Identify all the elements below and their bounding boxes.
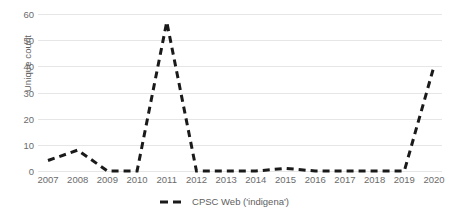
x-tick-label: 2007 — [37, 174, 58, 185]
x-tick-label: 2011 — [157, 174, 177, 185]
y-tick-label: 30 — [8, 87, 34, 98]
x-tick-label: 2009 — [97, 174, 118, 185]
legend-label: CPSC Web ('indigena') — [192, 196, 289, 207]
x-tick-label: 2013 — [216, 174, 237, 185]
x-tick-label: 2008 — [67, 174, 88, 185]
y-tick-label: 50 — [8, 35, 34, 46]
x-axis-tick-labels: 2007200820092010201120122013201420152016… — [38, 174, 442, 190]
x-tick-label: 2017 — [334, 174, 355, 185]
x-tick-label: 2016 — [305, 174, 326, 185]
y-tick-label: 20 — [8, 113, 34, 124]
x-tick-label: 2020 — [423, 174, 444, 185]
x-tick-label: 2012 — [186, 174, 207, 185]
x-tick-label: 2019 — [394, 174, 415, 185]
chart-legend: CPSC Web ('indigena') — [0, 196, 449, 207]
series-lines — [38, 14, 442, 171]
y-tick-label: 40 — [8, 61, 34, 72]
chart-container: Unique count 0102030405060 2007200820092… — [0, 0, 449, 219]
x-tick-label: 2010 — [126, 174, 147, 185]
x-tick-label: 2018 — [364, 174, 385, 185]
x-tick-label: 2015 — [275, 174, 296, 185]
y-tick-label: 0 — [8, 166, 34, 177]
series-line — [48, 22, 434, 171]
legend-line-swatch — [160, 198, 186, 206]
y-tick-label: 60 — [8, 9, 34, 20]
x-tick-label: 2014 — [245, 174, 266, 185]
plot-area — [38, 14, 442, 171]
y-axis-tick-labels: 0102030405060 — [0, 14, 34, 171]
y-tick-label: 10 — [8, 139, 34, 150]
